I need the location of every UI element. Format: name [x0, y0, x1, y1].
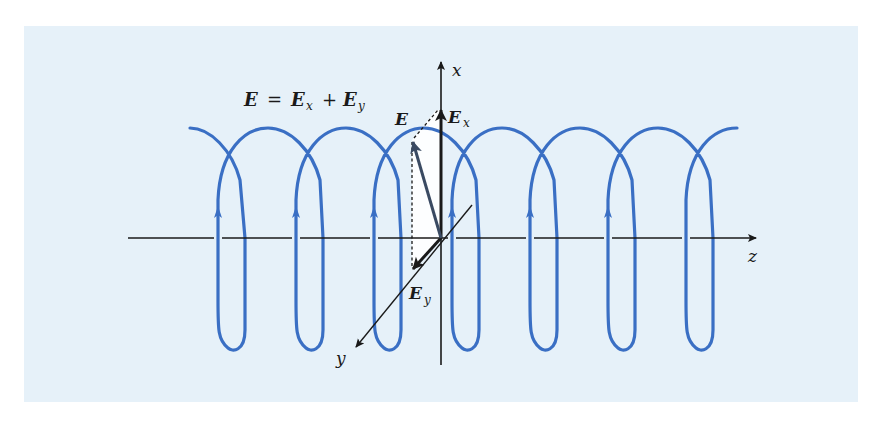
- equation-label: E = E x + E y: [243, 89, 365, 113]
- e-vector-label: E: [394, 109, 409, 129]
- svg-text:x: x: [306, 99, 313, 113]
- svg-text:x: x: [463, 116, 470, 130]
- ey-vector-label: E y: [408, 283, 431, 307]
- svg-text:E: E: [342, 89, 357, 110]
- svg-text:=: =: [267, 89, 282, 110]
- svg-text:E: E: [243, 89, 258, 110]
- z-axis-label: z: [747, 246, 758, 266]
- svg-text:E: E: [290, 89, 305, 110]
- ex-vector-label: E x: [447, 107, 470, 130]
- helix-wave: [190, 128, 737, 350]
- svg-text:E: E: [447, 107, 462, 127]
- svg-text:y: y: [357, 99, 365, 113]
- x-axis-label: x: [452, 60, 462, 80]
- svg-text:y: y: [423, 293, 431, 307]
- svg-text:+: +: [322, 89, 337, 110]
- circular-polarization-diagram: x z y E = E x + E y E E x E y: [0, 0, 888, 426]
- svg-text:E: E: [408, 283, 423, 303]
- y-axis-label: y: [335, 348, 346, 368]
